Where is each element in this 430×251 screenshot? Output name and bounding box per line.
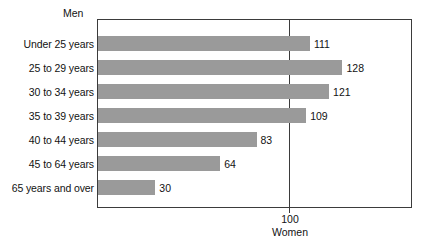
category-label-1: 25 to 29 years (29, 63, 94, 74)
bar-6 (98, 180, 155, 195)
bar-value-label-6: 30 (159, 183, 171, 194)
x-axis-tick-label-100: 100 (274, 214, 306, 225)
category-label-0: Under 25 years (24, 39, 94, 50)
bar-chart: Men 100 Women Under 25 years 25 to 29 ye… (0, 0, 430, 251)
category-label-4: 40 to 44 years (29, 135, 94, 146)
bar-value-label-3: 109 (310, 111, 328, 122)
bar-value-label-5: 64 (224, 159, 236, 170)
bar-2 (98, 84, 329, 99)
bar-4 (98, 132, 257, 147)
category-label-6: 65 years and over (12, 183, 94, 194)
bar-3 (98, 108, 306, 123)
bar-value-label-0: 111 (314, 39, 330, 50)
bar-5 (98, 156, 220, 171)
bar-0 (98, 36, 310, 51)
category-label-5: 45 to 64 years (29, 159, 94, 170)
category-label-2: 30 to 34 years (29, 87, 94, 98)
bar-value-label-1: 128 (346, 63, 364, 74)
category-label-3: 35 to 39 years (29, 111, 94, 122)
chart-top-caption: Men (63, 8, 83, 19)
bar-value-label-4: 83 (261, 135, 273, 146)
bar-1 (98, 60, 342, 75)
x-axis-title: Women (266, 227, 314, 238)
bar-value-label-2: 121 (333, 87, 351, 98)
